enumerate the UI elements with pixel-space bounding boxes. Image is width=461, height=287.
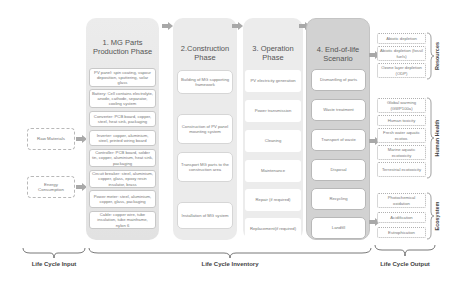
brace-icon <box>426 97 434 179</box>
brace-icon <box>374 244 436 258</box>
life-cycle-input-label: Life Cycle Input <box>22 261 86 267</box>
output-item: Terrestrial ecotoxicity <box>377 162 426 177</box>
phase-3-item: Maintenance <box>245 160 301 182</box>
output-item: Marine aquatic ecotoxicity <box>377 145 426 160</box>
phase-1-item: Circuit breaker: steel, aluminium, coppe… <box>89 170 156 188</box>
phase-3-item: Power transmission <box>245 100 301 122</box>
phase-1-production: 1. MG Parts Production Phase PV panel: s… <box>86 18 159 240</box>
raw-materials-label: Raw Materials <box>37 136 65 142</box>
life-cycle-inventory-label: Life Cycle Inventory <box>180 261 280 267</box>
brace-icon <box>22 247 86 259</box>
raw-materials-box: Raw Materials <box>27 128 75 150</box>
phase-1-item: Converter: PCB board, copper, steel, hea… <box>89 111 156 127</box>
output-item: Photochemical oxidation <box>377 193 426 208</box>
output-item: Ozone layer depletion (ODP) <box>377 63 426 78</box>
output-item: Global warming (GWP100a) <box>377 98 426 113</box>
phase-3-item: PV electricity generation <box>245 70 301 92</box>
resources-label: Resources <box>434 36 440 76</box>
arrow-right-icon <box>232 22 242 30</box>
phase-4-item: Dismantling of parts <box>311 69 366 91</box>
output-item: Human toxicity <box>377 115 426 126</box>
phase-4-item: Recycling <box>311 188 366 210</box>
brace-icon <box>426 192 434 240</box>
phase-4-item: Landfill <box>311 217 366 239</box>
phase-2-title: 2.Construction Phase <box>173 44 237 62</box>
phase-2-item: Transport MG parts to the construction a… <box>177 152 233 182</box>
phase-2-item: Construction of PV panel mounting system <box>177 114 233 144</box>
arrow-right-icon <box>76 135 86 143</box>
phase-3-item: Replacement(if required) <box>245 218 301 240</box>
phase-4-end-of-life: 4. End-of-life Scenario Dismantling of p… <box>306 18 370 240</box>
output-item: Fresh water aquatic ecotox. <box>377 128 426 143</box>
ecosystem-label: Ecosystem <box>434 196 440 236</box>
phase-2-item: Building of MG supporting framework <box>177 70 233 94</box>
brace-icon <box>88 247 372 259</box>
output-item: Eutrophication <box>377 227 426 238</box>
energy-consumption-label: Energy Consumption <box>36 182 66 193</box>
phase-1-item: Battery: Cell contains electrolyte, anod… <box>89 89 156 108</box>
phase-1-item: Controller: PCB board, solder tin, coppe… <box>89 149 156 167</box>
phase-3-item: Cleaning <box>245 130 301 152</box>
brace-icon <box>426 32 434 80</box>
phase-1-title: 1. MG Parts Production Phase <box>86 38 159 56</box>
energy-consumption-box: Energy Consumption <box>27 176 75 198</box>
phase-1-item: Power meter: steel, aluminium, copper, g… <box>89 190 156 208</box>
phase-1-item: Cable: copper wire, tube insulation, tub… <box>89 211 156 229</box>
phase-3-title: 3. Operation Phase <box>243 44 303 62</box>
phase-4-title: 4. End-of-life Scenario <box>307 45 369 63</box>
phase-1-item: Inverter: copper, aluminium, steel, prin… <box>89 130 156 146</box>
phase-4-item: Transport of waste <box>311 129 366 151</box>
phase-3-operation: 3. Operation Phase PV electricity genera… <box>243 18 303 240</box>
phase-2-construction: 2.Construction Phase Building of MG supp… <box>173 18 237 240</box>
phase-3-item: Repair (if required) <box>245 189 301 211</box>
phase-4-item: Waste treatment <box>311 99 366 121</box>
life-cycle-output-label: Life Cycle Output <box>374 261 436 267</box>
output-item: Abiotic depletion <box>377 33 426 44</box>
arrow-right-icon <box>162 22 172 30</box>
phase-4-item: Disposal <box>311 159 366 181</box>
phase-1-item: PV panel: spin coating, vapour depositio… <box>89 68 156 87</box>
phase-2-item: Installation of MG system <box>177 202 233 229</box>
output-item: Acidification <box>377 212 426 223</box>
human-health-label: Human Health <box>434 113 440 163</box>
arrow-right-icon <box>76 183 86 191</box>
output-item: Abiotic depletion (fossil fuels) <box>377 46 426 61</box>
